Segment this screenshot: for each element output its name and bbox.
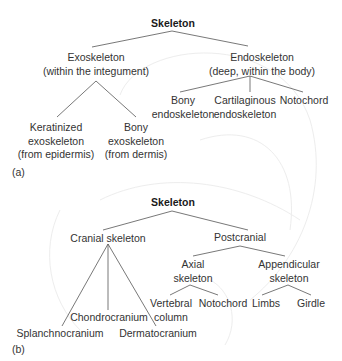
node-keratinized-exoskeleton: Keratinized exoskeleton (from epidermis) [18,121,94,162]
node-girdle: Girdle [297,297,325,311]
exoskeleton-title: Exoskeleton [43,51,149,65]
vertebral-line1: Vertebral [150,297,192,311]
node-vertebral-column: Vertebral column [150,297,192,324]
appendicular-line1: Appendicular [258,258,319,272]
bony-exo-line1: Bony [105,121,167,135]
skeleton-classification-diagram: Skeleton Exoskeleton (within the integum… [0,0,342,361]
node-cartilaginous-endoskeleton: Cartilaginous endoskeleton [214,94,276,121]
exoskeleton-subtitle: (within the integument) [43,65,149,79]
endoskeleton-subtitle: (deep, within the body) [209,65,315,79]
keratinized-line2: exoskeleton [18,135,94,149]
node-notochord-b: Notochord [199,297,247,311]
node-splanchnocranium: Splanchnocranium [17,327,104,341]
bony-exo-line2: exoskeleton [105,135,167,149]
root-skeleton-a: Skeleton [151,17,195,31]
node-chondrocranium: Chondrocranium [70,311,148,325]
node-limbs: Limbs [252,297,280,311]
vertebral-line2: column [150,311,192,325]
node-notochord-a: Notochord [280,94,328,108]
node-endoskeleton: Endoskeleton (deep, within the body) [209,51,315,78]
panel-label-a: (a) [12,166,25,178]
bony-exo-line3: (from dermis) [105,148,167,162]
bony-endo-line2: endoskeleton [152,108,214,122]
axial-line1: Axial [173,258,212,272]
appendicular-line2: skeleton [258,272,319,286]
node-dermatocranium: Dermatocranium [119,327,197,341]
endoskeleton-title: Endoskeleton [209,51,315,65]
cartilaginous-line2: endoskeleton [214,108,276,122]
panel-label-b: (b) [12,343,25,355]
keratinized-line1: Keratinized [18,121,94,135]
node-postcranial: Postcranial [214,231,266,245]
node-bony-endoskeleton: Bony endoskeleton [152,94,214,121]
node-appendicular-skeleton: Appendicular skeleton [258,258,319,285]
root-skeleton-b: Skeleton [151,196,195,210]
node-axial-skeleton: Axial skeleton [173,258,212,285]
bony-endo-line1: Bony [152,94,214,108]
axial-line2: skeleton [173,272,212,286]
keratinized-line3: (from epidermis) [18,148,94,162]
node-cranial-skeleton: Cranial skeleton [70,232,145,246]
node-exoskeleton: Exoskeleton (within the integument) [43,51,149,78]
cartilaginous-line1: Cartilaginous [214,94,276,108]
node-bony-exoskeleton: Bony exoskeleton (from dermis) [105,121,167,162]
